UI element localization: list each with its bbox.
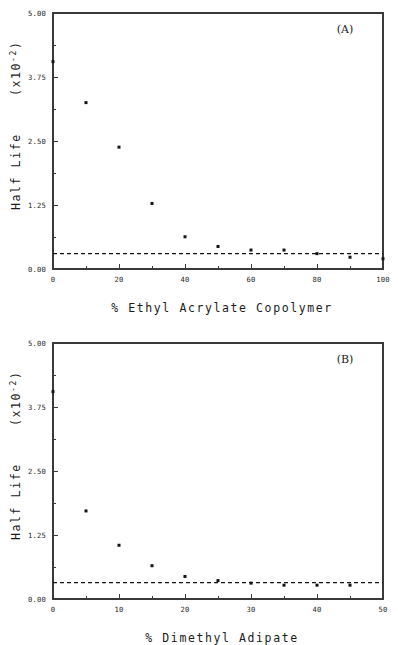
data-point [382, 257, 385, 260]
x-axis-tick-labels-a: 020406080100 [51, 275, 390, 284]
y-axis-title-a: Half Life [9, 133, 23, 210]
x-axis-title-b: % Dimethyl Adipate [145, 631, 298, 645]
x-tick-label: 80 [312, 275, 321, 284]
data-point [217, 245, 220, 248]
y-tick-label: 0.00 [28, 595, 46, 604]
data-point [349, 256, 352, 259]
plot-frame-a [53, 13, 383, 269]
x-axis-ticks-a [53, 264, 383, 269]
y-tick-label: 2.50 [28, 137, 46, 146]
x-axis-title-a: % Ethyl Acrylate Copolymer [111, 301, 333, 315]
y-tick-label: 1.25 [28, 531, 46, 540]
data-point [184, 575, 187, 578]
scatter-plot-b: 01020304050 0.001.252.503.755.00 (B) % D… [0, 330, 398, 645]
panel-label-b: (B) [337, 353, 354, 366]
data-point [85, 509, 88, 512]
y-tick-label: 3.75 [28, 73, 46, 82]
plot-frame-b [53, 343, 383, 599]
data-point [118, 544, 121, 547]
x-tick-label: 50 [378, 605, 387, 614]
x-tick-label: 60 [246, 275, 255, 284]
panel-label-a: (A) [337, 23, 354, 36]
data-point [349, 584, 352, 587]
data-point [316, 584, 319, 587]
y-axis-title-b: Half Life [9, 463, 23, 540]
scatter-plot-a: 020406080100 0.001.252.503.755.00 (A) % … [0, 0, 398, 330]
data-point [184, 235, 187, 238]
data-point [118, 146, 121, 149]
chart-panel-b: 01020304050 0.001.252.503.755.00 (B) % D… [0, 330, 398, 645]
y-tick-label: 5.00 [28, 9, 46, 18]
data-point [283, 249, 286, 252]
data-point [217, 579, 220, 582]
data-point [52, 60, 55, 63]
chart-panel-a: 020406080100 0.001.252.503.755.00 (A) % … [0, 0, 398, 330]
figure-container: 020406080100 0.001.252.503.755.00 (A) % … [0, 0, 398, 645]
data-points-b [52, 390, 352, 587]
y-axis-title-unit-b: (x10-2) [9, 371, 24, 426]
x-tick-label: 30 [246, 605, 255, 614]
y-axis-tick-labels-a: 0.001.252.503.755.00 [28, 9, 46, 274]
y-axis-title-group-b: Half Life (x10-2) [9, 371, 24, 540]
scan-artifacts-a [68, 13, 341, 269]
x-tick-label: 10 [114, 605, 123, 614]
x-axis-ticks-b [53, 594, 383, 599]
x-tick-label: 100 [376, 275, 390, 284]
x-tick-label: 20 [114, 275, 123, 284]
y-tick-label: 2.50 [28, 467, 46, 476]
data-point [85, 101, 88, 104]
y-tick-label: 1.25 [28, 201, 46, 210]
data-point [283, 584, 286, 587]
data-points-a [52, 60, 385, 260]
x-tick-label: 40 [312, 605, 321, 614]
y-axis-title-unit-a: (x10-2) [9, 41, 24, 96]
y-axis-tick-labels-b: 0.001.252.503.755.00 [28, 339, 46, 604]
data-point [250, 582, 253, 585]
y-tick-label: 3.75 [28, 403, 46, 412]
data-point [52, 390, 55, 393]
data-point [151, 202, 154, 205]
x-tick-label: 0 [51, 605, 56, 614]
y-axis-title-group-a: Half Life (x10-2) [9, 41, 24, 210]
data-point [316, 252, 319, 255]
x-tick-label: 20 [180, 605, 189, 614]
y-tick-label: 5.00 [28, 339, 46, 348]
x-tick-label: 0 [51, 275, 56, 284]
data-point [250, 249, 253, 252]
y-tick-label: 0.00 [28, 265, 46, 274]
y-axis-ticks-a [53, 13, 58, 269]
x-axis-tick-labels-b: 01020304050 [51, 605, 388, 614]
x-tick-label: 40 [180, 275, 189, 284]
data-point [151, 564, 154, 567]
scan-artifacts-b [70, 343, 361, 599]
y-axis-ticks-b [53, 343, 58, 599]
